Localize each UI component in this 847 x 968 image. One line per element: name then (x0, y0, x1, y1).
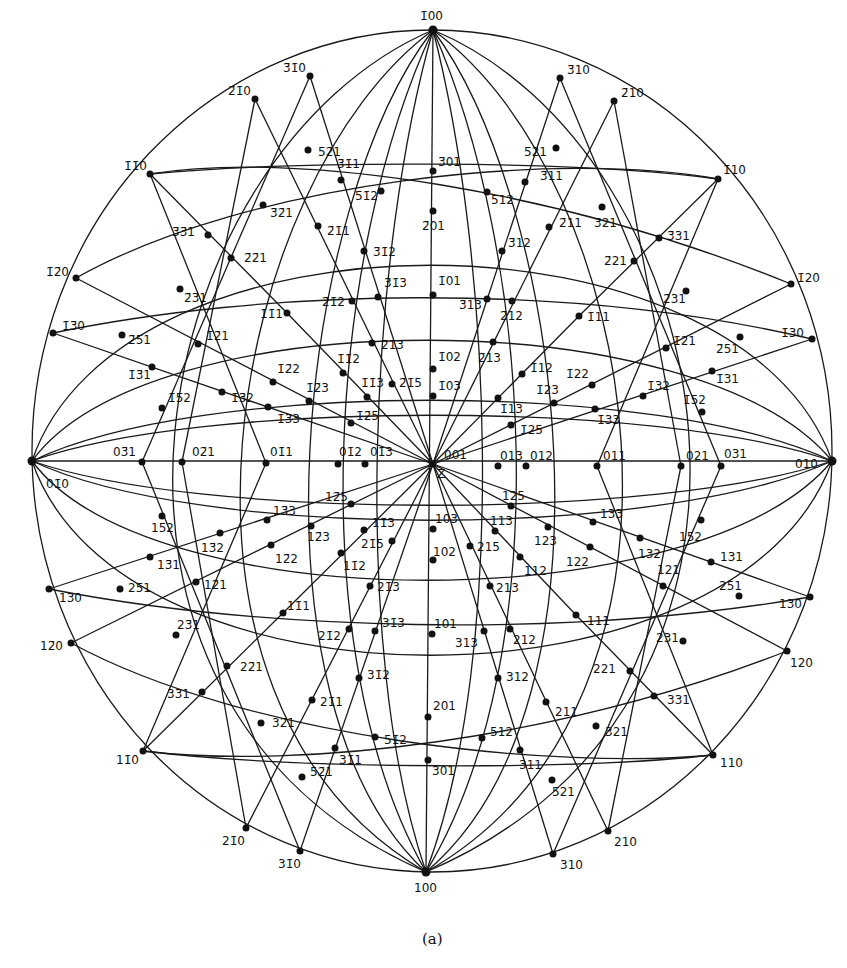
pole-label: 12̄5 (325, 490, 348, 504)
pole-point (340, 370, 347, 377)
pole-point (708, 559, 715, 566)
pole-label: 215 (477, 540, 500, 554)
pole-point (425, 757, 432, 764)
pole-point (576, 313, 583, 320)
pole-label: 1̄00 (420, 9, 443, 23)
pole-point (709, 368, 716, 375)
pole-point (737, 334, 744, 341)
pole-label: 1̄10 (723, 163, 746, 177)
pole-label: 1̄31 (716, 372, 739, 386)
pole-label: 1̄11 (587, 310, 610, 324)
pole-label: 01̄2 (339, 445, 362, 459)
pole-point (338, 550, 345, 557)
pole-point (139, 459, 146, 466)
pole-label: 25̄1 (128, 581, 151, 595)
pole-label: 3̄1̄2 (373, 245, 396, 259)
pole-point (348, 501, 355, 508)
pole-point (429, 631, 436, 638)
pole-label: 2̄2̄1 (244, 251, 267, 265)
pole-label: 52̄1 (310, 765, 333, 779)
pole-label: 12̄3 (307, 530, 330, 544)
pole-point (195, 341, 202, 348)
pole-point (592, 406, 599, 413)
pole-label: 1̄1̄1 (260, 307, 283, 321)
pole-label: 1̄3̄2 (231, 391, 254, 405)
pole-label: 3̄10 (567, 63, 590, 77)
pole-point (307, 73, 314, 80)
pole-point (389, 381, 396, 388)
pole-label: 2̄11 (559, 216, 582, 230)
pole-label: 1̄25 (520, 423, 543, 437)
pole-point (364, 394, 371, 401)
pole-label: 313 (455, 636, 478, 650)
pole-point (219, 389, 226, 396)
pole-point (718, 463, 725, 470)
pole-point (308, 523, 315, 530)
pole-label: 210 (614, 835, 637, 849)
pole-point (484, 296, 491, 303)
pole-point (243, 825, 250, 832)
pole-label: 11̄1 (287, 599, 310, 613)
pole-point (297, 848, 304, 855)
pole-label: 01̄3 (370, 445, 393, 459)
pole-point (372, 628, 379, 635)
pole-label: 1̄2̄1 (206, 329, 229, 343)
pole-point (627, 668, 634, 675)
pole-point (710, 752, 717, 759)
pole-point (177, 286, 184, 293)
pole-label: 51̄2 (384, 733, 407, 747)
pole-label: 3̄2̄1 (270, 206, 293, 220)
pole-label: 13̄1 (157, 558, 180, 572)
pole-point (546, 224, 553, 231)
pole-label: 1̄03 (438, 379, 461, 393)
pole-point (372, 734, 379, 741)
pole-point (173, 632, 180, 639)
pole-label: 1̄13 (500, 402, 523, 416)
pole-label: 21̄0 (222, 834, 245, 848)
pole-label: 1̄20 (797, 271, 820, 285)
pole-point (46, 586, 53, 593)
pole-point (389, 538, 396, 545)
pole-point (306, 398, 313, 405)
pole-point (346, 626, 353, 633)
pole-label: 13̄3 (273, 504, 296, 518)
pole-label: 11̄0 (116, 753, 139, 767)
pole-label: 32̄1 (272, 716, 295, 730)
pole-label: 021 (686, 449, 709, 463)
pole-label: 13̄0 (59, 591, 82, 605)
pole-label: 12̄1 (204, 578, 227, 592)
pole-label: 31̄2 (367, 668, 390, 682)
pole-point (660, 583, 667, 590)
pole-label: 1̄52 (683, 393, 706, 407)
pole-label: 3̄13 (459, 298, 482, 312)
pole-label: 112 (524, 564, 547, 578)
pole-point (315, 223, 322, 230)
pole-label: 125 (502, 489, 525, 503)
pole-point (663, 345, 670, 352)
pole-label: 1̄5̄2 (168, 391, 191, 405)
pole-label: 1̄01 (438, 274, 461, 288)
pole-point (788, 281, 795, 288)
pole-point (807, 594, 814, 601)
pole-label: 102 (433, 545, 456, 559)
pole-point (589, 382, 596, 389)
pole-label: 131 (720, 550, 743, 564)
pole-label: 22̄1 (240, 660, 263, 674)
pole-point (651, 693, 658, 700)
pole-label: 2̄13 (478, 351, 501, 365)
pole-point (507, 626, 514, 633)
pole-label: 5̄21 (524, 145, 547, 159)
pole-label: 120 (790, 656, 813, 670)
pole-point (509, 298, 516, 305)
pole-label: 1̄1̄0 (124, 159, 147, 173)
pole-label: 11̄2 (343, 559, 366, 573)
zone-lines (32, 30, 832, 872)
pole-point (499, 248, 506, 255)
pole-point (594, 463, 601, 470)
pole-point (487, 583, 494, 590)
pole-point (508, 503, 515, 510)
pole-label: 3̄31 (667, 229, 690, 243)
pole-point (523, 463, 530, 470)
pole-label: 3̄21 (594, 216, 617, 230)
pole-label: 321 (605, 725, 628, 739)
